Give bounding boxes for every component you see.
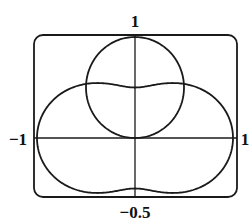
axis-label-right: 1 [241,130,250,149]
axis-label-left: −1 [9,130,27,149]
axis-label-bottom: −0.5 [120,203,151,222]
polar-plot: 1 −1 1 −0.5 [0,0,252,222]
axis-label-top: 1 [131,12,140,31]
